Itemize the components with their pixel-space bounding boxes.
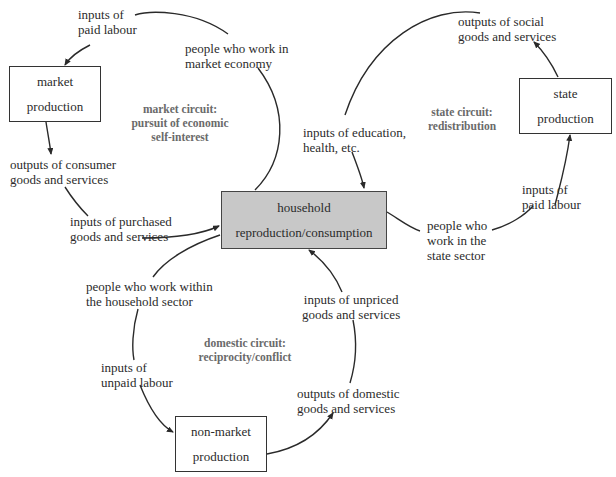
label-line: paid labour	[78, 22, 137, 37]
circuit-domestic: domestic circuit: reciprocity/conflict	[190, 336, 300, 364]
label-line: goods and services	[70, 229, 172, 244]
arrow-market-to-consumer-outputs	[46, 122, 51, 154]
label-people-household-sector: people who work within the household sec…	[86, 279, 213, 309]
circuit-desc: redistribution	[422, 119, 502, 133]
label-line: goods and services	[302, 307, 400, 322]
node-label: non-market	[191, 424, 251, 439]
label-line: work in the	[427, 233, 487, 248]
arrow-state-to-social-outputs	[534, 42, 558, 77]
node-label: state	[554, 86, 578, 101]
label-line: inputs of purchased	[70, 214, 172, 229]
label-line: the household sector	[86, 294, 213, 309]
label-inputs-paid-labour-market: inputs of paid labour	[78, 7, 137, 37]
label-line: goods and services	[297, 401, 400, 416]
node-market-production: market production	[9, 66, 101, 122]
label-line: inputs of	[101, 360, 173, 375]
label-line: health, etc.	[303, 140, 406, 155]
arc-market-economy-to-household	[255, 68, 280, 190]
label-line: outputs of social	[458, 14, 556, 29]
circuit-state: state circuit: redistribution	[422, 105, 502, 133]
label-line: people who	[427, 218, 487, 233]
arc-people-to-paid-labour	[135, 12, 228, 34]
label-outputs-consumer: outputs of consumer goods and services	[10, 157, 116, 187]
label-line: state sector	[427, 248, 487, 263]
arc-household-sector-to-unpaid	[133, 309, 138, 360]
label-line: inputs of education,	[303, 125, 406, 140]
arc-domestic-outputs-to-unpriced	[350, 320, 356, 383]
circuit-desc: reciprocity/conflict	[190, 350, 300, 364]
node-household: household reproduction/consumption	[221, 191, 387, 249]
arrow-unpaid-to-nonmarket	[140, 385, 173, 432]
label-inputs-unpaid-labour: inputs of unpaid labour	[101, 360, 173, 390]
label-line: goods and services	[458, 29, 556, 44]
label-line: paid labour	[522, 197, 581, 212]
label-line: inputs of	[522, 182, 581, 197]
label-outputs-domestic: outputs of domestic goods and services	[297, 386, 400, 416]
line-consumer-to-purchased	[65, 187, 88, 216]
label-line: outputs of consumer	[10, 157, 116, 172]
label-inputs-paid-labour-state: inputs of paid labour	[522, 182, 581, 212]
node-label: production	[27, 99, 83, 114]
label-line: market economy	[185, 56, 289, 71]
circuit-market: market circuit: pursuit of economic self…	[120, 102, 240, 144]
node-label: reproduction/consumption	[235, 225, 372, 240]
circuit-desc: pursuit of economic	[120, 116, 240, 130]
label-inputs-unpriced: inputs of unpriced goods and services	[302, 292, 400, 322]
label-line: unpaid labour	[101, 375, 173, 390]
label-people-market-economy: people who work in market economy	[185, 41, 289, 71]
arrow-unpriced-to-household	[309, 250, 342, 292]
label-people-state-sector: people who work in the state sector	[427, 218, 487, 263]
circuit-title: market circuit:	[120, 102, 240, 116]
label-line: inputs of unpriced	[302, 292, 400, 307]
label-inputs-purchased: inputs of purchased goods and services	[70, 214, 172, 244]
label-inputs-education: inputs of education, health, etc.	[303, 125, 406, 155]
line-household-to-state-sector	[387, 212, 420, 231]
node-label: market	[37, 74, 73, 89]
node-state-production: state production	[519, 78, 612, 134]
arrow-education-to-household	[352, 152, 364, 188]
label-line: people who work within	[86, 279, 213, 294]
label-line: goods and services	[10, 172, 116, 187]
arrow-paid-labour-to-market	[65, 45, 90, 65]
economic-circuits-diagram: market production state production house…	[0, 0, 616, 477]
node-label: household	[277, 200, 330, 215]
circuit-title: domestic circuit:	[190, 336, 300, 350]
label-outputs-social: outputs of social goods and services	[458, 14, 556, 44]
arrow-nonmarket-to-domestic-outputs	[267, 413, 333, 454]
label-line: people who work in	[185, 41, 289, 56]
circuit-title: state circuit:	[422, 105, 502, 119]
label-line: inputs of	[78, 7, 137, 22]
circuit-desc: self-interest	[120, 130, 240, 144]
node-label: production	[193, 449, 249, 464]
node-label: production	[537, 111, 593, 126]
label-line: outputs of domestic	[297, 386, 400, 401]
node-nonmarket-production: non-market production	[175, 416, 267, 472]
